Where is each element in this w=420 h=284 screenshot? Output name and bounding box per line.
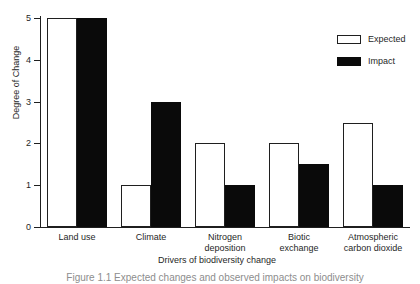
y-axis-tick-label: 0 <box>0 223 31 232</box>
y-axis-tick <box>34 227 40 228</box>
bar-expected <box>195 143 225 227</box>
x-axis-category-label: Atmosphericcarbon dioxide <box>326 232 420 254</box>
legend-label-impact: Impact <box>368 55 395 68</box>
figure-caption-text: Figure 1.1 Expected changes and observed… <box>66 272 363 284</box>
x-axis-title-text: Drivers of biodiversity change <box>158 256 276 265</box>
bar-impact <box>151 102 181 227</box>
bar-expected <box>47 18 77 227</box>
bar-impact <box>225 185 255 227</box>
x-axis-line <box>40 227 410 228</box>
bar-expected <box>343 123 373 228</box>
legend: Expected Impact <box>337 33 420 77</box>
bar-impact <box>373 185 403 227</box>
x-axis-category-label-line: Atmospheric <box>326 232 420 243</box>
bar-impact <box>299 164 329 227</box>
y-axis-title: Degree of Change <box>12 23 21 143</box>
x-axis-title: Drivers of biodiversity change <box>0 256 420 265</box>
legend-item-expected: Expected <box>337 33 420 55</box>
bar-impact <box>77 18 107 227</box>
x-axis-category-label-line: carbon dioxide <box>326 243 420 254</box>
bar-expected <box>269 143 299 227</box>
y-axis-tick-label: 3 <box>0 98 31 107</box>
y-axis-tick-label: 1 <box>0 181 31 190</box>
legend-label-expected: Expected <box>368 33 406 46</box>
legend-swatch-impact-icon <box>337 57 361 66</box>
y-axis-tick-label: 5 <box>0 14 31 23</box>
figure-caption: Figure 1.1 Expected changes and observed… <box>0 272 420 284</box>
legend-swatch-expected-icon <box>337 35 361 44</box>
y-axis-tick-label: 4 <box>0 56 31 65</box>
bar-expected <box>121 185 151 227</box>
legend-item-impact: Impact <box>337 55 420 77</box>
y-axis-tick-label: 2 <box>0 139 31 148</box>
